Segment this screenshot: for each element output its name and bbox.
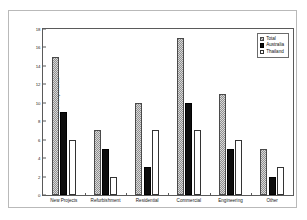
y-tick-mark	[43, 139, 46, 140]
bar-australia-refurbishment	[102, 149, 109, 195]
y-tick-label: 8	[38, 119, 40, 124]
x-tick-label-residential: Residential	[136, 198, 159, 203]
y-tick-label: 4	[38, 156, 40, 161]
bar-australia-commercial	[185, 103, 192, 195]
legend-item-thailand[interactable]: Thailand	[260, 49, 284, 55]
x-tick-label-engineering: Engineering	[218, 198, 243, 203]
y-tick-mark	[43, 29, 46, 30]
x-tick-mark	[210, 193, 211, 196]
y-tick-mark	[43, 158, 46, 159]
x-tick-mark	[126, 193, 127, 196]
x-tick-label-commercial: Commercial	[177, 198, 202, 203]
bar-australia-residential	[144, 167, 151, 195]
x-tick-label-refurbishment: Refurbishment	[91, 198, 121, 203]
y-tick-mark	[43, 47, 46, 48]
y-tick-label: 6	[38, 137, 40, 142]
y-tick-label: 18	[36, 27, 41, 32]
y-tick-mark	[43, 121, 46, 122]
legend-swatch-australia-icon	[260, 43, 264, 47]
y-tick-label: 12	[36, 82, 41, 87]
y-tick-label: 2	[38, 174, 40, 179]
bar-total-refurbishment	[94, 130, 101, 195]
bar-australia-new-projects	[60, 112, 67, 195]
x-tick-mark	[251, 193, 252, 196]
plot-area: No. of Respondents 024681012141618 New P…	[42, 28, 294, 196]
y-tick-label: 0	[38, 193, 40, 198]
bar-thailand-new-projects	[69, 140, 76, 195]
y-tick-mark	[43, 65, 46, 66]
bar-thailand-refurbishment	[110, 177, 117, 195]
legend-label: Thailand	[266, 50, 284, 55]
legend-swatch-thailand-icon	[260, 50, 264, 54]
y-tick-mark	[43, 195, 46, 196]
bar-total-commercial	[177, 38, 184, 195]
y-tick-mark	[43, 176, 46, 177]
bar-australia-engineering	[227, 149, 234, 195]
bar-total-engineering	[219, 94, 226, 195]
legend-swatch-total-icon	[260, 37, 264, 41]
legend-label: Total	[266, 37, 276, 42]
bar-total-residential	[135, 103, 142, 195]
y-tick-mark	[43, 102, 46, 103]
legend-label: Australia	[266, 43, 284, 48]
bar-australia-other	[269, 177, 276, 195]
y-tick-label: 10	[36, 100, 41, 105]
bar-thailand-residential	[152, 130, 159, 195]
x-tick-label-other: Other	[266, 198, 278, 203]
bar-thailand-engineering	[235, 140, 242, 195]
x-tick-label-new-projects: New Projects	[50, 198, 77, 203]
y-tick-label: 16	[36, 45, 41, 50]
chart-legend: TotalAustraliaThailand	[257, 33, 289, 58]
figure-border: No. of Respondents 024681012141618 New P…	[8, 10, 297, 208]
x-tick-mark	[168, 193, 169, 196]
y-tick-label: 14	[36, 63, 41, 68]
bar-thailand-commercial	[194, 130, 201, 195]
bar-total-other	[260, 149, 267, 195]
y-tick-mark	[43, 84, 46, 85]
x-tick-mark	[85, 193, 86, 196]
bar-total-new-projects	[52, 57, 59, 195]
chart-figure: No. of Respondents 024681012141618 New P…	[0, 0, 307, 220]
x-tick-mark	[293, 193, 294, 196]
bar-thailand-other	[277, 167, 284, 195]
